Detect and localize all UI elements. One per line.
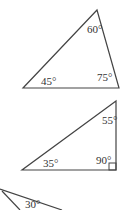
angle-label-bottom-left: 35° (43, 157, 58, 169)
angle-label-bottom-left: 45° (41, 75, 56, 87)
triangles-diagram: 60° 45° 75° 55° 35° 90° 30° (0, 0, 129, 210)
triangle-3: 30° (0, 189, 62, 210)
angle-label-top: 60° (87, 23, 102, 35)
triangle-1: 60° 45° 75° (23, 10, 119, 88)
angle-label-top: 55° (102, 114, 117, 126)
angle-label-bottom-right: 75° (97, 71, 112, 83)
triangle-2: 55° 35° 90° (22, 101, 117, 170)
angle-label-partial: 30° (25, 198, 40, 210)
triangle-3-edge-bottom (2, 191, 20, 210)
angle-label-right-angle: 90° (96, 154, 111, 166)
